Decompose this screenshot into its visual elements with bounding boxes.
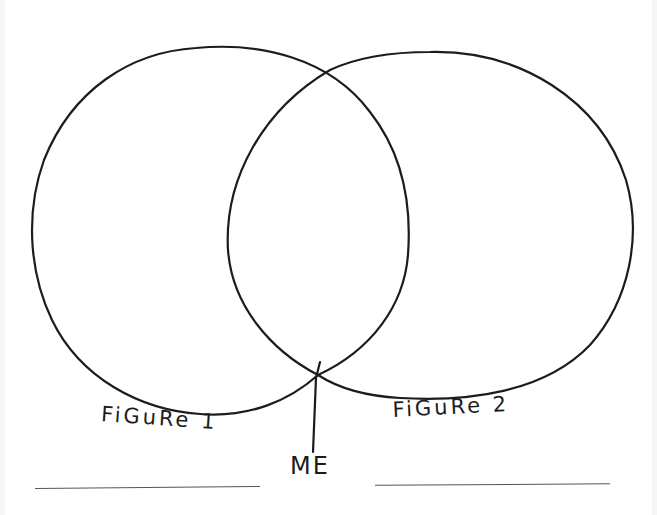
venn-diagram-drawing	[0, 0, 657, 515]
label-me: ME	[290, 452, 330, 480]
circle-figure-1	[32, 47, 409, 415]
diagram-canvas: FiGuRe 1 FiGuRe 2 ME	[0, 0, 657, 515]
circle-figure-2	[228, 52, 633, 399]
